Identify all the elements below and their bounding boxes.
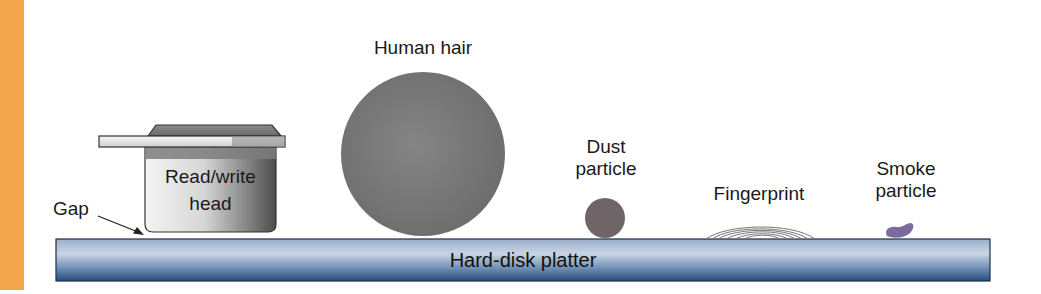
dust-label-line2: particle (575, 158, 637, 180)
smoke-particle-blob (886, 223, 913, 238)
human-hair-circle (341, 72, 505, 236)
dust-label-line1: Dust (575, 136, 637, 158)
gap-arrow (98, 216, 144, 235)
smoke-label-line2: particle (866, 180, 946, 202)
gap-label: Gap (53, 198, 101, 220)
fingerprint-marks (706, 227, 815, 239)
head-label-line1: Read/write (145, 163, 276, 190)
read-write-head-label: Read/write head (145, 163, 276, 217)
human-hair-label: Human hair (368, 37, 478, 59)
head-label-line2: head (145, 190, 276, 217)
dust-particle-circle (585, 198, 625, 238)
smoke-label-line1: Smoke (866, 158, 946, 180)
platter-label: Hard-disk platter (56, 248, 990, 272)
dust-particle-label: Dust particle (575, 136, 637, 180)
fingerprint-label: Fingerprint (700, 183, 818, 205)
smoke-particle-label: Smoke particle (866, 158, 946, 202)
